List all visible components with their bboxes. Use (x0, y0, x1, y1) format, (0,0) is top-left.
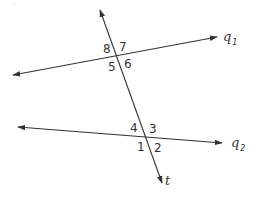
label-q1: q1 (223, 29, 237, 47)
scan-speck (13, 3, 14, 4)
angle-label-4: 4 (130, 121, 138, 135)
angle-label-1: 1 (137, 140, 145, 154)
angle-label-3: 3 (149, 122, 157, 136)
transversal-diagram: q1 q2 t 8 7 5 6 4 3 1 2 (0, 0, 256, 198)
line-q2 (18, 127, 222, 143)
angle-label-2: 2 (154, 141, 162, 155)
angle-label-8: 8 (103, 42, 111, 56)
angle-label-6: 6 (124, 57, 132, 71)
label-q2: q2 (231, 135, 245, 153)
label-t: t (165, 173, 171, 188)
angle-label-7: 7 (119, 40, 127, 54)
angle-label-5: 5 (108, 60, 116, 74)
line-t-transversal (100, 10, 162, 183)
